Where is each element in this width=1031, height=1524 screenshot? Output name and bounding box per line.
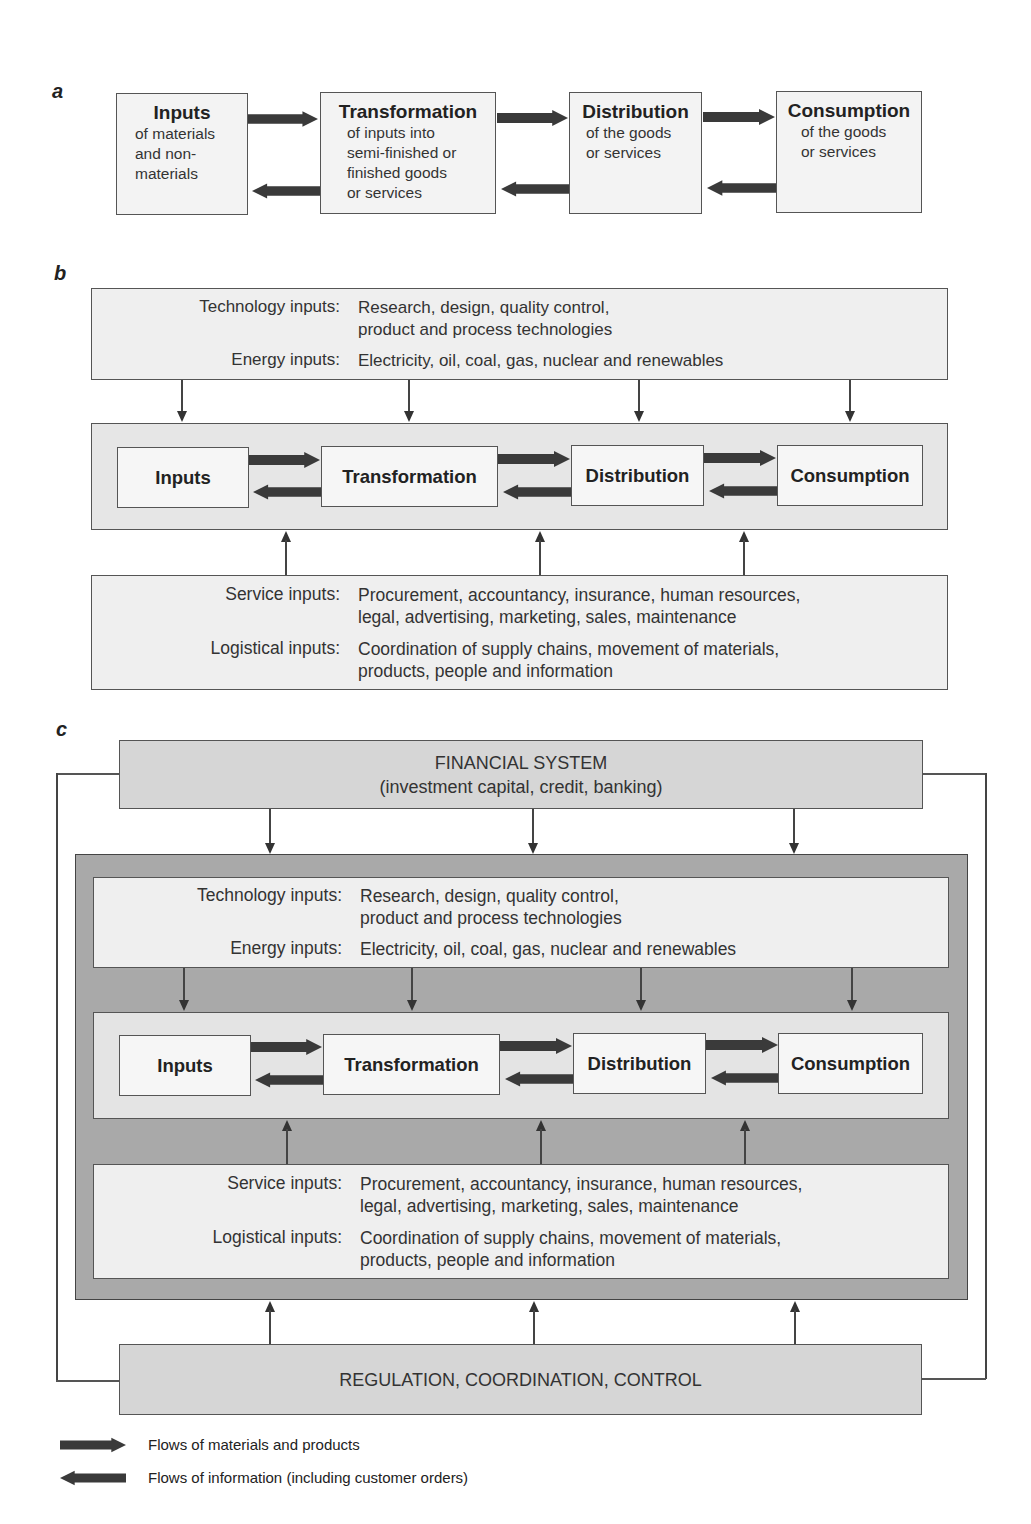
connector-line xyxy=(922,773,986,775)
arrow-right-icon xyxy=(60,1437,126,1453)
input-value-line: Coordination of supply chains, movement … xyxy=(358,638,779,660)
connector-line xyxy=(540,1129,542,1164)
connector-line xyxy=(286,1129,288,1164)
energy-inputs-row: Energy inputs: Electricity, oil, coal, g… xyxy=(94,938,736,960)
input-value-line: product and process technologies xyxy=(360,907,622,929)
input-value-line: Electricity, oil, coal, gas, nuclear and… xyxy=(358,350,723,372)
legend-label: Flows of information (including customer… xyxy=(148,1469,468,1486)
input-value-line: products, people and information xyxy=(360,1249,781,1271)
input-label: Technology inputs: xyxy=(92,297,358,341)
input-value-line: Coordination of supply chains, movement … xyxy=(360,1227,781,1249)
arrow-left-icon xyxy=(252,183,320,199)
connector-line xyxy=(922,1378,986,1380)
input-value-line: products, people and information xyxy=(358,660,779,682)
connector-line xyxy=(285,540,287,575)
stage-inputs: Inputs xyxy=(117,447,249,508)
input-value-line: product and process technologies xyxy=(358,319,612,341)
arrow-left-icon xyxy=(501,181,569,197)
stage-subtitle-line: of the goods xyxy=(801,122,911,142)
service-inputs-row: Service inputs: Procurement, accountancy… xyxy=(94,1173,802,1217)
connector-line xyxy=(985,773,987,1379)
stage-subtitle-line: or services xyxy=(801,142,911,162)
stage-transformation: Transformation xyxy=(323,1034,500,1095)
stage-consumption: Consumption xyxy=(778,1033,923,1094)
top-inputs-box: Technology inputs: Research, design, qua… xyxy=(91,288,948,380)
connector-line xyxy=(640,968,642,1002)
financial-system-title: FINANCIAL SYSTEM xyxy=(435,751,607,775)
arrow-right-icon xyxy=(497,110,568,126)
arrow-down-icon xyxy=(265,843,275,854)
connector-line xyxy=(532,809,534,845)
input-value-line: Research, design, quality control, xyxy=(360,885,622,907)
stage-consumption: Consumption xyxy=(777,445,923,506)
arrow-down-icon xyxy=(845,411,855,422)
service-inputs-row: Service inputs: Procurement, accountancy… xyxy=(92,584,800,628)
stage-subtitle-line: of the goods xyxy=(586,123,691,143)
input-value-line: legal, advertising, marketing, sales, ma… xyxy=(360,1195,802,1217)
stage-title: Distribution xyxy=(580,101,691,123)
input-value-line: Research, design, quality control, xyxy=(358,297,612,319)
connector-line xyxy=(269,809,271,845)
regulation-title: REGULATION, COORDINATION, CONTROL xyxy=(339,1368,701,1392)
arrow-right-icon xyxy=(500,1038,572,1054)
connector-line xyxy=(851,968,853,1002)
arrow-right-icon xyxy=(704,450,776,466)
connector-line xyxy=(744,1129,746,1164)
input-value-line: Procurement, accountancy, insurance, hum… xyxy=(360,1173,802,1195)
connector-line xyxy=(638,380,640,413)
stage-title: Inputs xyxy=(127,102,237,124)
connector-line xyxy=(181,380,183,413)
arrow-right-icon xyxy=(703,109,775,125)
connector-line xyxy=(539,540,541,575)
arrow-left-icon xyxy=(255,1072,323,1088)
arrow-left-icon xyxy=(253,484,321,500)
bottom-inputs-box: Service inputs: Procurement, accountancy… xyxy=(93,1164,949,1279)
arrow-down-icon xyxy=(789,843,799,854)
stage-subtitle-line: of inputs into xyxy=(347,123,485,143)
arrow-right-icon xyxy=(498,451,570,467)
connector-line xyxy=(56,773,58,1381)
connector-line xyxy=(408,380,410,413)
arrow-right-icon xyxy=(251,1039,322,1055)
stage-box-distribution: Distribution of the goods or services xyxy=(569,92,702,214)
connector-line xyxy=(849,380,851,413)
legend-item-information: Flows of information (including customer… xyxy=(60,1469,468,1486)
arrow-left-icon xyxy=(711,1070,778,1086)
stage-inputs: Inputs xyxy=(119,1035,251,1096)
input-label: Energy inputs: xyxy=(94,938,360,960)
arrow-left-icon xyxy=(707,180,776,196)
input-value-line: Electricity, oil, coal, gas, nuclear and… xyxy=(360,938,736,960)
arrow-left-icon xyxy=(60,1470,126,1486)
logistical-inputs-row: Logistical inputs: Coordination of suppl… xyxy=(94,1227,781,1271)
stage-transformation: Transformation xyxy=(321,446,498,507)
panel-label-c: c xyxy=(56,718,67,741)
top-inputs-box: Technology inputs: Research, design, qua… xyxy=(93,877,949,968)
stage-subtitle-line: or services xyxy=(586,143,691,163)
connector-line xyxy=(183,968,185,1002)
arrow-right-icon xyxy=(248,111,318,127)
arrow-left-icon xyxy=(503,484,571,500)
technology-inputs-row: Technology inputs: Research, design, qua… xyxy=(94,885,622,929)
input-label: Energy inputs: xyxy=(92,350,358,372)
logistical-inputs-row: Logistical inputs: Coordination of suppl… xyxy=(92,638,779,682)
panel-label-b: b xyxy=(54,262,66,285)
stage-subtitle-line: of materials xyxy=(135,124,237,144)
stage-distribution: Distribution xyxy=(573,1033,706,1094)
financial-system-box: FINANCIAL SYSTEM (investment capital, cr… xyxy=(119,740,923,809)
legend-label: Flows of materials and products xyxy=(148,1436,360,1453)
financial-system-subtitle: (investment capital, credit, banking) xyxy=(379,775,662,799)
input-label: Service inputs: xyxy=(94,1173,360,1217)
connector-line xyxy=(411,968,413,1002)
input-label: Logistical inputs: xyxy=(94,1227,360,1271)
arrow-left-icon xyxy=(709,483,777,499)
arrow-down-icon xyxy=(404,411,414,422)
arrow-down-icon xyxy=(634,411,644,422)
stage-box-transformation: Transformation of inputs into semi-finis… xyxy=(320,92,496,214)
stage-subtitle-line: and non- xyxy=(135,144,237,164)
arrow-down-icon xyxy=(636,1000,646,1011)
input-label: Service inputs: xyxy=(92,584,358,628)
input-value-line: legal, advertising, marketing, sales, ma… xyxy=(358,606,800,628)
stage-title: Transformation xyxy=(331,101,485,123)
arrow-left-icon xyxy=(505,1071,573,1087)
stage-box-inputs: Inputs of materials and non- materials xyxy=(116,93,248,215)
